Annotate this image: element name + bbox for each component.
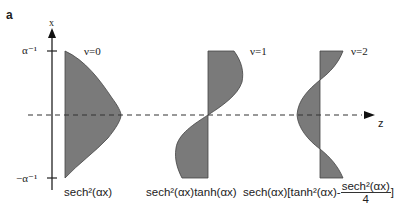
fraction-denominator: 4 <box>341 193 391 205</box>
mode-2-profile-top <box>320 51 343 80</box>
nu-1-label: ν=1 <box>250 45 267 57</box>
mode-2-label-suffix: ] <box>391 186 394 198</box>
z-axis-arrow-icon <box>364 111 375 119</box>
nu-0-label: ν=0 <box>84 45 101 57</box>
nu-2-label: ν=2 <box>351 45 368 57</box>
fraction-numerator: sech²(αx) <box>341 180 391 193</box>
axis-arrow-icon <box>48 28 56 38</box>
mode-0-function-label: sech²(αx) <box>64 186 112 198</box>
mode-2-label-prefix: sech(αx)[tanh²(αx)- <box>243 186 341 198</box>
mode-2-function-label: sech(αx)[tanh²(αx)-sech²(αx)4] <box>243 180 394 205</box>
mode-2-fraction: sech²(αx)4 <box>341 180 391 205</box>
mode-1-profile-neg <box>175 115 208 178</box>
z-axis-label: z <box>378 117 384 129</box>
mode-1-function-label: sech²(αx)tanh(αx) <box>146 186 237 198</box>
mode-2-profile-bottom <box>320 149 343 178</box>
x-axis-label: x <box>49 17 54 28</box>
vertical-axis <box>47 28 57 190</box>
mode-1-profile <box>208 51 243 115</box>
bottom-tick-label: −α⁻¹ <box>16 172 37 185</box>
top-tick-label: α⁻¹ <box>22 44 37 57</box>
